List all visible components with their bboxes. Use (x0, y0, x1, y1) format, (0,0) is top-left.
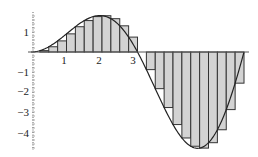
riemann-bar (209, 52, 218, 143)
riemann-bar (155, 52, 164, 89)
riemann-sum-chart: 1 2 3 1 −1 −2 −3 −4 (0, 0, 258, 157)
riemann-bar (217, 52, 226, 130)
riemann-bar (49, 47, 58, 52)
riemann-bar (75, 27, 84, 52)
riemann-bars (40, 16, 244, 148)
y-tick-label: −3 (17, 106, 29, 118)
riemann-bar (58, 41, 67, 52)
y-tick-label: −4 (17, 127, 29, 139)
riemann-bar (67, 34, 76, 52)
riemann-bar (200, 52, 209, 148)
riemann-bar (146, 52, 155, 70)
riemann-bar (120, 26, 129, 52)
riemann-bar (226, 52, 235, 110)
riemann-bar (191, 52, 200, 146)
riemann-bar (182, 52, 191, 138)
x-tick-label: 2 (96, 54, 102, 66)
riemann-bar (173, 52, 182, 125)
y-tick-label: −2 (17, 85, 29, 97)
riemann-bar (102, 16, 111, 52)
x-tick-label: 3 (130, 54, 136, 66)
x-tick-label: 1 (61, 54, 67, 66)
riemann-bar (164, 52, 173, 108)
riemann-bar (84, 21, 93, 52)
y-tick-label: 1 (24, 26, 30, 38)
riemann-bar (93, 17, 102, 52)
y-tick-label: −1 (17, 66, 29, 78)
